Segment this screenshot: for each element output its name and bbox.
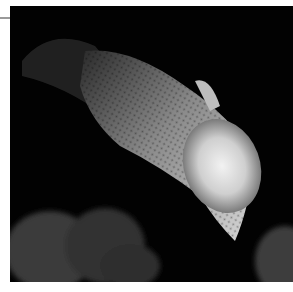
fish-illustration <box>10 6 293 282</box>
fish-photo <box>10 6 293 282</box>
